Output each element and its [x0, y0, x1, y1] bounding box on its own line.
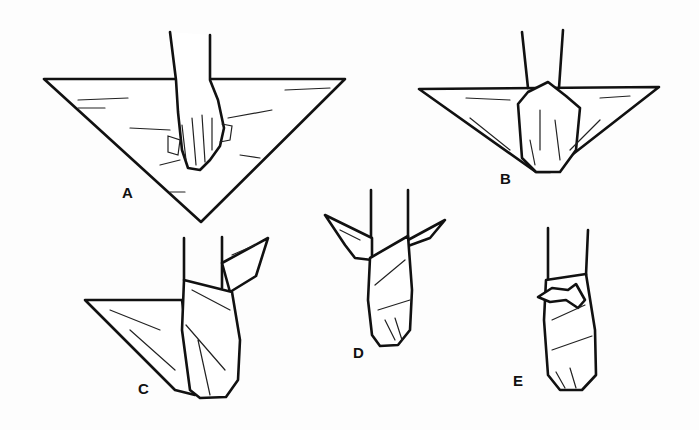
- bandage-tail-right-d: [408, 220, 445, 246]
- bandage-tail-c: [222, 238, 268, 292]
- step-label-a: A: [122, 184, 133, 201]
- wrapped-hand-c: [182, 280, 240, 398]
- step-e-drawing: [538, 228, 596, 390]
- step-label-e: E: [513, 372, 523, 389]
- step-label-b: B: [500, 170, 511, 187]
- step-b-drawing: [419, 30, 659, 172]
- step-c-drawing: [85, 237, 268, 398]
- bandage-figure: A B C D E: [0, 0, 699, 430]
- illustration: [0, 0, 699, 430]
- step-label-c: C: [138, 380, 149, 397]
- step-label-d: D: [353, 344, 364, 361]
- bandage-tail-left-d: [325, 215, 372, 260]
- step-d-drawing: [325, 190, 445, 346]
- step-a-drawing: [44, 32, 345, 222]
